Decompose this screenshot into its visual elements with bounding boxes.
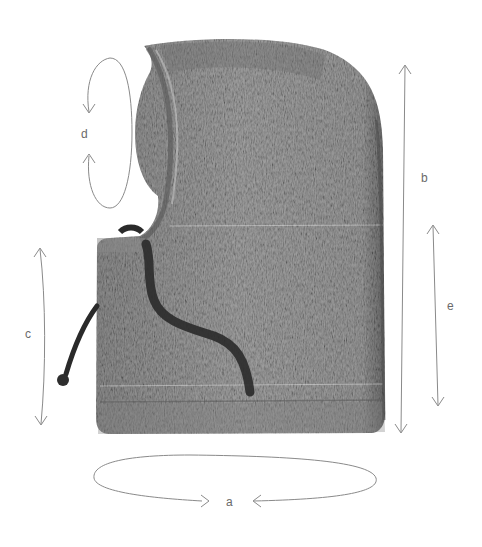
- measurement-e-arrow: [427, 225, 444, 406]
- measurement-label-e: e: [447, 300, 454, 312]
- hood-body: [96, 39, 385, 434]
- diagram-canvas: [0, 0, 482, 547]
- drawstring-tail: [66, 306, 97, 374]
- balaclava: [57, 39, 385, 434]
- measurement-label-b: b: [421, 172, 428, 184]
- balaclava-measurement-diagram: d b e c a: [0, 0, 482, 547]
- hem-rib: [98, 402, 385, 434]
- measurement-d-loop: [83, 58, 132, 208]
- measurement-a-loop: [94, 455, 376, 507]
- drawstring-knot: [57, 374, 69, 386]
- measurement-c-arrow: [34, 248, 47, 425]
- measurement-b-arrow: [395, 65, 411, 433]
- measurement-label-c: c: [25, 328, 31, 340]
- measurement-label-a: a: [226, 496, 233, 508]
- measurement-label-d: d: [81, 128, 88, 140]
- collar-rib: [97, 238, 145, 252]
